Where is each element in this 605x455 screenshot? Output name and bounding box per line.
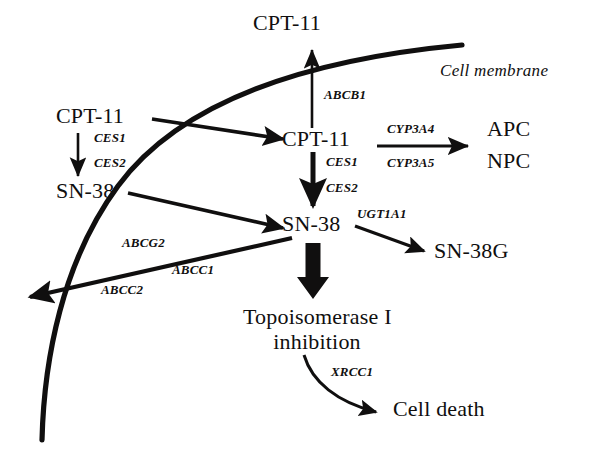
label-sn38-outside: SN-38: [56, 180, 114, 202]
label-gene-cyp3a4: CYP3A4: [387, 122, 434, 135]
label-cell-membrane: Cell membrane: [440, 62, 548, 79]
label-sn38-inside: SN-38: [282, 213, 340, 235]
label-cell-death: Cell death: [393, 398, 485, 420]
pathway-diagram: CPT-11 Cell membrane ABCB1 CPT-11 CES1 C…: [0, 0, 605, 455]
label-apc: APC: [487, 118, 530, 140]
label-gene-ces2-outside: CES2: [94, 156, 126, 169]
label-gene-abcc1: ABCC1: [172, 263, 214, 276]
label-cpt11-top: CPT-11: [253, 12, 321, 34]
topo-line-2: inhibition: [243, 330, 391, 355]
arrow-uptake-sn38: [128, 193, 283, 228]
label-sn38g: SN-38G: [434, 240, 509, 262]
label-gene-ces2-inside: CES2: [326, 181, 358, 194]
label-gene-ces1-outside: CES1: [94, 131, 126, 144]
topo-line-1: Topoisomerase I: [243, 305, 391, 330]
label-gene-ugt1a1: UGT1A1: [357, 207, 407, 220]
arrow-topoisomerase-inhibition: [297, 243, 329, 299]
label-gene-abcc2: ABCC2: [101, 283, 143, 296]
label-gene-ces1-inside: CES1: [326, 155, 358, 168]
label-cpt11-outside: CPT-11: [56, 105, 124, 127]
arrow-ugt1a1: [355, 226, 424, 251]
label-topoisomerase-inhibition: Topoisomerase I inhibition: [243, 305, 391, 354]
label-npc: NPC: [487, 150, 530, 172]
label-gene-xrcc1: XRCC1: [331, 365, 373, 378]
label-gene-abcg2: ABCG2: [122, 236, 165, 249]
label-gene-abcb1: ABCB1: [324, 88, 366, 101]
label-gene-cyp3a5: CYP3A5: [387, 156, 434, 169]
label-cpt11-inside: CPT-11: [282, 128, 350, 150]
